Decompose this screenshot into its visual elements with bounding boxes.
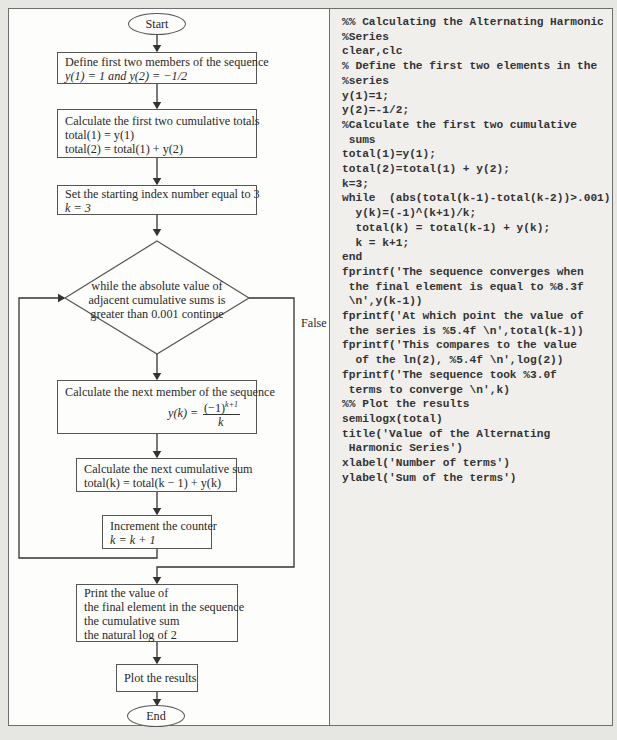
decision-line: while the absolute value of	[87, 279, 227, 293]
code-line: %Calculate the first two cumulative	[342, 118, 611, 133]
code-panel: %% Calculating the Alternating Harmonic%…	[330, 9, 612, 725]
code-line: total(1)=y(1);	[342, 147, 611, 162]
formula-lhs: y(k) =	[168, 406, 198, 420]
code-line: Harmonic Series')	[342, 441, 611, 456]
step-next-member: Calculate the next member of the sequenc…	[57, 380, 257, 434]
code-line: while (abs(total(k-1)-total(k-2))>.001)	[342, 191, 611, 206]
step-text: total(k) = total(k − 1) + y(k)	[84, 476, 229, 490]
code-line: title('Value of the Alternating	[342, 427, 611, 442]
code-line: xlabel('Number of terms')	[342, 456, 611, 471]
step-text: total(2) = total(1) + y(2)	[65, 142, 249, 156]
code-line: of the ln(2), %5.4f \n',log(2))	[342, 353, 611, 368]
formula-exponent: k+1	[225, 400, 238, 409]
formula-numerator: (−1)k+1	[204, 398, 238, 415]
decision-line: greater than 0.001 continue	[87, 307, 227, 321]
step-text: Calculate the next cumulative sum	[84, 462, 229, 476]
step-text: k = 3	[65, 201, 249, 215]
figure-frame: Start Define first two members of the se…	[8, 8, 613, 726]
code-line: end	[342, 250, 611, 265]
code-line: sums	[342, 133, 611, 148]
step-set-starting-index: Set the starting index number equal to 3…	[57, 185, 257, 215]
code-line: total(2)=total(1) + y(2);	[342, 162, 611, 177]
step-text: Set the starting index number equal to 3	[65, 187, 249, 201]
code-line: %% Calculating the Alternating Harmonic	[342, 15, 611, 30]
start-label: Start	[145, 17, 168, 31]
code-line: the final element is equal to %8.3f	[342, 280, 611, 295]
end-label: End	[146, 709, 166, 723]
code-line: ylabel('Sum of the terms')	[342, 471, 611, 486]
step-text: k = k + 1	[110, 533, 204, 547]
code-line: fprintf('This compares to the value	[342, 338, 611, 353]
formula-denominator: k	[218, 415, 223, 429]
code-line: % Define the first two elements in the	[342, 59, 611, 74]
code-line: terms to converge \n',k)	[342, 383, 611, 398]
code-line: fprintf('At which point the value of	[342, 309, 611, 324]
code-line: semilogx(total)	[342, 412, 611, 427]
code-line: fprintf('The sequence took %3.0f	[342, 368, 611, 383]
code-line: k=3;	[342, 177, 611, 192]
code-line: y(k)=(-1)^(k+1)/k;	[342, 206, 611, 221]
code-line: %series	[342, 74, 611, 89]
code-line: fprintf('The sequence converges when	[342, 265, 611, 280]
step-text: Increment the counter	[110, 519, 204, 533]
step-increment-counter: Increment the counter k = k + 1	[102, 515, 212, 549]
step-text: Define first two members of the sequence	[65, 55, 249, 69]
step-text: total(1) = y(1)	[65, 128, 249, 142]
matlab-code-listing: %% Calculating the Alternating Harmonic%…	[342, 15, 611, 486]
step-text: the natural log of 2	[84, 628, 230, 642]
code-line: clear,clc	[342, 44, 611, 59]
flowchart-panel: Start Define first two members of the se…	[9, 9, 330, 725]
end-terminal: End	[127, 705, 185, 727]
decision-text: while the absolute value of adjacent cum…	[87, 279, 227, 321]
step-text: the cumulative sum	[84, 614, 230, 628]
step-text: Print the value of	[84, 586, 230, 600]
step-text: Calculate the first two cumulative total…	[65, 114, 249, 128]
step-next-cumulative-sum: Calculate the next cumulative sum total(…	[76, 458, 237, 492]
code-line: \n',y(k-1))	[342, 294, 611, 309]
step-text: y(1) = 1 and y(2) = −1/2	[65, 69, 249, 83]
step-text: Plot the results	[124, 671, 190, 685]
decision-line: adjacent cumulative sums is	[87, 293, 227, 307]
step-first-cumulative-totals: Calculate the first two cumulative total…	[57, 109, 257, 158]
step-print-results: Print the value of the final element in …	[76, 584, 238, 642]
code-line: %Series	[342, 30, 611, 45]
code-line: total(k) = total(k-1) + y(k);	[342, 221, 611, 236]
start-terminal: Start	[128, 13, 186, 35]
code-line: y(2)=-1/2;	[342, 103, 611, 118]
false-branch-label: False	[301, 316, 327, 331]
step-text: Calculate the next member of the sequenc…	[65, 385, 249, 399]
code-line: %% Plot the results	[342, 397, 611, 412]
step-define-first-members: Define first two members of the sequence…	[57, 52, 257, 84]
code-line: k = k+1;	[342, 236, 611, 251]
step-text: the final element in the sequence	[84, 600, 230, 614]
code-line: y(1)=1;	[342, 89, 611, 104]
step-plot-results: Plot the results	[116, 664, 198, 692]
code-line: the series is %5.4f \n',total(k-1))	[342, 324, 611, 339]
